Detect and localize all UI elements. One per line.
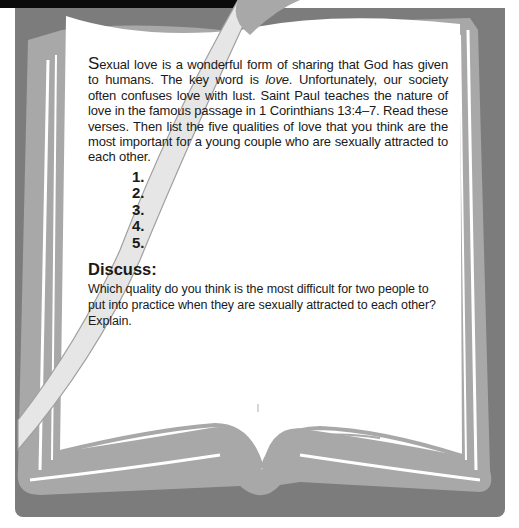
drop-cap: S <box>88 54 99 73</box>
qualities-list: 1. 2. 3. 4. 5. <box>132 169 448 252</box>
intro-paragraph: Sexual love is a wonderful form of shari… <box>88 56 448 165</box>
list-item: 4. <box>132 218 448 235</box>
discuss-question: Which quality do you think is the most d… <box>88 281 448 329</box>
intro-emphasis: love <box>266 72 289 87</box>
list-item: 2. <box>132 185 448 202</box>
list-item: 3. <box>132 202 448 219</box>
activity-content: Sexual love is a wonderful form of shari… <box>88 56 448 329</box>
discuss-heading: Discuss: <box>88 260 448 279</box>
list-item: 1. <box>132 169 448 186</box>
list-item: 5. <box>132 235 448 252</box>
